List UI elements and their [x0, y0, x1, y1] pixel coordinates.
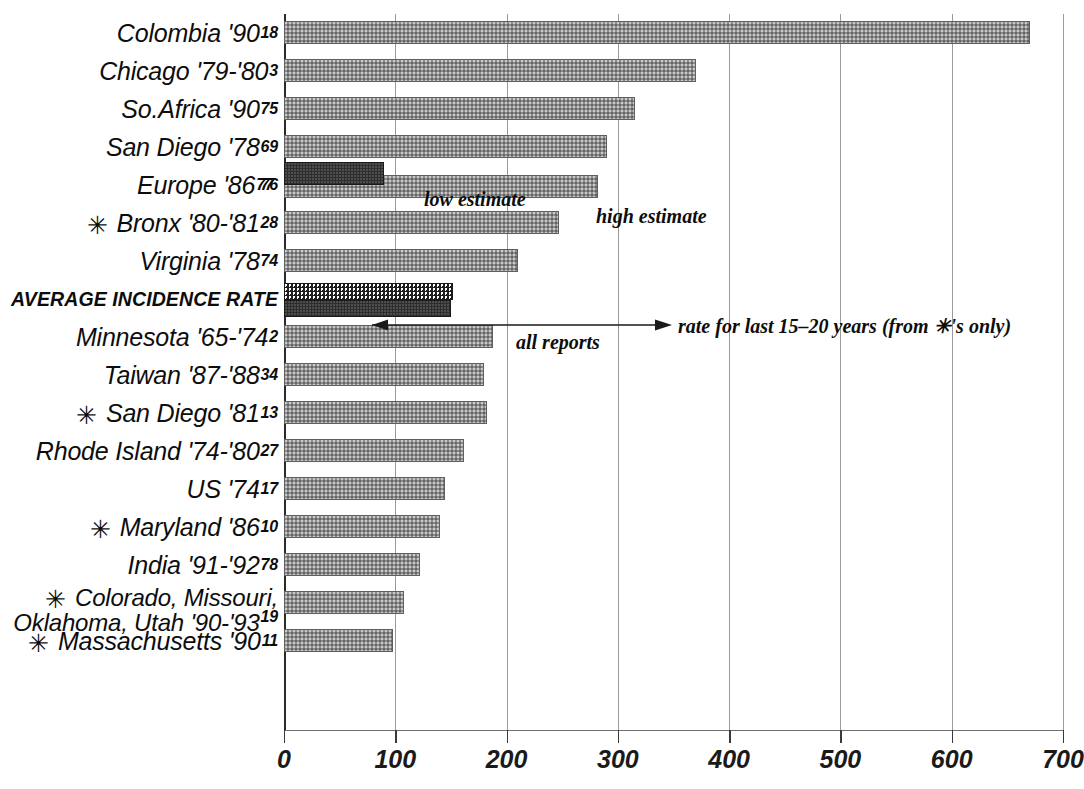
rate-annotation-arrow	[0, 0, 1083, 789]
incidence-rate-bar-chart: 0100200300400500600700 Colombia '9018Chi…	[0, 0, 1083, 789]
